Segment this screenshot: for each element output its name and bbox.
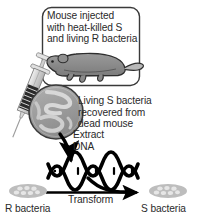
extract-line-1: Extract bbox=[73, 129, 104, 140]
callout-line-1: Mouse injected bbox=[47, 10, 114, 21]
transformation-experiment-figure: Mouse injected with heat-killed S and li… bbox=[0, 0, 200, 219]
extract-dna-label: Extract DNA bbox=[73, 129, 104, 152]
extract-line-2: DNA bbox=[73, 141, 94, 152]
s-bacteria-label: S bacteria bbox=[141, 203, 186, 215]
petri-caption-line-1: Living S bacteria bbox=[78, 95, 152, 106]
callout-label: Mouse injected with heat-killed S and li… bbox=[47, 10, 137, 45]
petri-caption-line-2: recovered from bbox=[78, 107, 145, 118]
callout-line-2: with heat-killed S bbox=[47, 22, 122, 33]
callout-line-3: and living R bacteria bbox=[47, 33, 137, 44]
petri-caption-line-3: dead mouse bbox=[78, 118, 133, 129]
r-bacteria-icon bbox=[9, 184, 47, 198]
transform-label: Transform bbox=[68, 194, 113, 206]
petri-dish-caption: Living S bacteria recovered from dead mo… bbox=[78, 95, 152, 130]
s-bacteria-icon bbox=[149, 184, 187, 198]
r-bacteria-label: R bacteria bbox=[5, 203, 50, 215]
